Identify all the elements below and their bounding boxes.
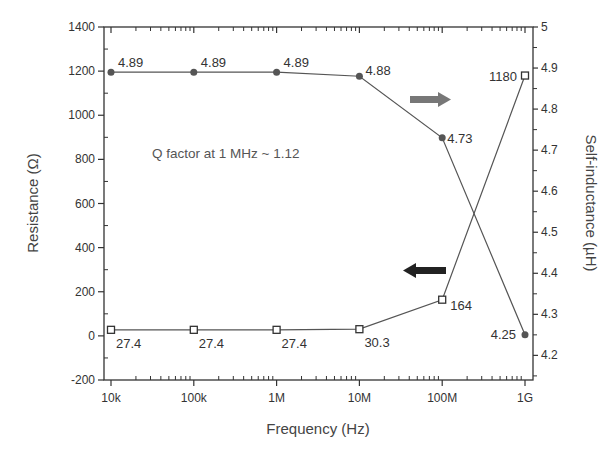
resistance-value-label: 27.4 xyxy=(116,336,141,351)
plot-frame xyxy=(104,27,533,380)
inductance-line xyxy=(111,72,525,335)
resistance-point xyxy=(273,326,280,333)
y2-tick-label: 4.9 xyxy=(541,61,558,75)
y2-tick-label: 4.6 xyxy=(541,184,558,198)
y-tick-label: 1200 xyxy=(68,64,95,78)
y2-tick-label: 4.7 xyxy=(541,143,558,157)
inductance-point xyxy=(356,73,363,80)
x-axis-title: Frequency (Hz) xyxy=(266,420,369,437)
y-tick-label: 800 xyxy=(75,152,95,166)
y2-tick-label: 4.5 xyxy=(541,225,558,239)
inductance-point xyxy=(439,134,446,141)
y-tick-label: 0 xyxy=(88,329,95,343)
resistance-point xyxy=(190,326,197,333)
x-tick-label: 100k xyxy=(181,391,208,405)
resistance-value-label: 164 xyxy=(450,298,472,313)
resistance-point xyxy=(356,326,363,333)
x-tick-label: 1M xyxy=(268,391,285,405)
inductance-value-label: 4.88 xyxy=(365,63,390,78)
y-tick-label: 200 xyxy=(75,285,95,299)
y-tick-label: 1000 xyxy=(68,108,95,122)
y2-tick-label: 4.3 xyxy=(541,307,558,321)
y2-axis-title: Self-inductance (µH) xyxy=(583,134,600,271)
resistance-point xyxy=(439,296,446,303)
x-tick-label: 1G xyxy=(517,391,533,405)
resistance-value-label: 1180 xyxy=(489,69,517,84)
inductance-value-label: 4.89 xyxy=(284,55,309,70)
inductance-point xyxy=(522,331,529,338)
resistance-value-label: 30.3 xyxy=(364,335,389,350)
y-tick-label: 600 xyxy=(75,197,95,211)
y-tick-label: -200 xyxy=(71,373,95,387)
inductance-value-label: 4.73 xyxy=(447,131,472,146)
inductance-value-label: 4.89 xyxy=(201,55,226,70)
x-tick-label: 10M xyxy=(348,391,371,405)
y2-tick-label: 4.8 xyxy=(541,102,558,116)
y2-tick-label: 4.4 xyxy=(541,266,558,280)
inductance-point xyxy=(273,69,280,76)
inductance-value-label: 4.89 xyxy=(118,55,143,70)
arrow-right-indicator xyxy=(410,92,451,107)
y2-tick-label: 5 xyxy=(541,20,548,34)
annotation-q-factor: Q factor at 1 MHz ~ 1.12 xyxy=(152,146,299,161)
y-axis-title: Resistance (Ω) xyxy=(24,153,41,253)
resistance-line xyxy=(111,76,525,330)
y2-tick-label: 4.2 xyxy=(541,348,558,362)
y-tick-label: 400 xyxy=(75,241,95,255)
x-tick-label: 100M xyxy=(427,391,457,405)
inductance-value-label: 4.25 xyxy=(491,327,516,342)
resistance-value-label: 27.4 xyxy=(199,336,224,351)
inductance-point xyxy=(190,69,197,76)
resistance-point xyxy=(522,72,529,79)
data-labels: 27.427.427.430.316411804.894.894.894.884… xyxy=(116,55,517,351)
axes: -20002004006008001000120014004.24.34.44.… xyxy=(68,20,558,405)
inductance-point xyxy=(108,69,115,76)
resistance-value-label: 27.4 xyxy=(282,336,307,351)
x-tick-label: 10k xyxy=(101,391,121,405)
y-tick-label: 1400 xyxy=(68,20,95,34)
arrow-left-indicator xyxy=(403,263,446,278)
resistance-point xyxy=(108,326,115,333)
chart: -20002004006008001000120014004.24.34.44.… xyxy=(0,0,614,457)
